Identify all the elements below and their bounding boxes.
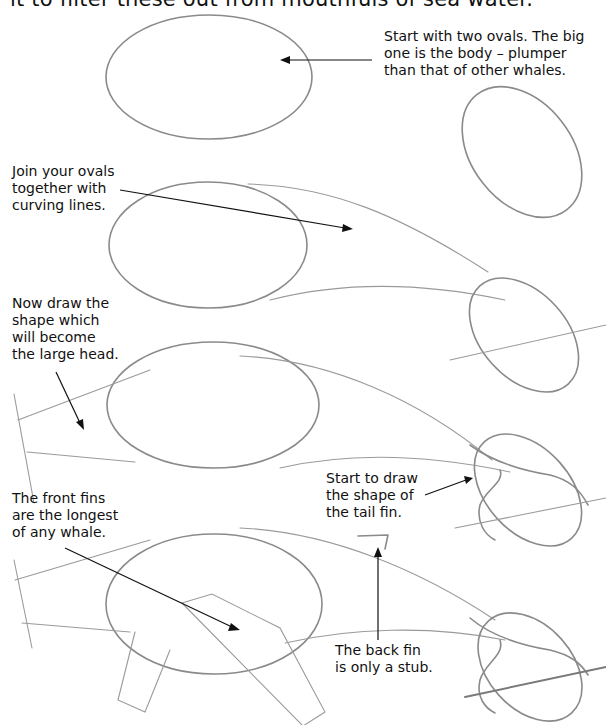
tail-oval	[448, 257, 600, 413]
top-curve-line	[240, 528, 495, 620]
top-curve-line	[240, 356, 492, 460]
tail-fin-lower	[479, 470, 501, 540]
body-oval	[109, 182, 307, 308]
body-oval	[106, 534, 322, 674]
arrow-icon	[425, 476, 473, 495]
head-front-line	[14, 560, 32, 648]
tail-guide-line	[455, 498, 606, 528]
head-bottom-line	[27, 452, 135, 462]
arrow-icon	[280, 56, 372, 64]
back-fin-stub	[358, 535, 388, 549]
tail-fin-lower	[479, 640, 501, 713]
tail-guide-line	[450, 325, 606, 360]
step5-sketch	[14, 528, 606, 725]
arrow-icon	[65, 548, 240, 631]
step3-caption: Now draw the shape which will become the…	[12, 295, 119, 363]
tail-oval	[453, 414, 602, 567]
arrow-icon	[56, 372, 84, 430]
tail-guide-line	[465, 667, 606, 697]
body-oval	[106, 15, 312, 139]
step1-caption: Start with two ovals. The big one is the…	[384, 28, 584, 79]
step5-caption: The front fins are the longest of any wh…	[12, 490, 118, 541]
step2-caption: Join your ovals together with curving li…	[12, 163, 114, 214]
arrow-icon	[120, 190, 353, 232]
head-bottom-line	[22, 623, 130, 632]
tail-oval	[457, 593, 602, 725]
tail-fin-upper	[470, 445, 588, 505]
head-front-line	[14, 394, 34, 503]
head-top-line	[18, 370, 150, 420]
tail-oval	[438, 64, 606, 241]
top-curve-line	[248, 184, 488, 272]
step4-caption: Start to draw the shape of the tail fin.	[326, 470, 418, 521]
step6-caption: The back fin is only a stub.	[335, 642, 433, 676]
arrow-icon	[374, 547, 382, 640]
bottom-curve-line	[270, 287, 505, 301]
